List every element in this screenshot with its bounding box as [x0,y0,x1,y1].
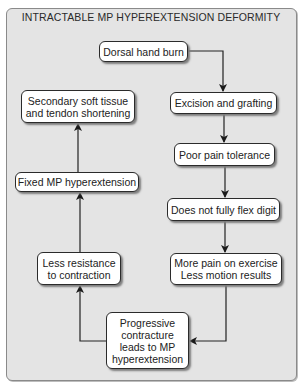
node-dorsal-hand-burn: Dorsal hand burn [99,41,188,62]
node-progressive-contracture: Progressive contracture leads to MP hype… [106,312,189,369]
arrow-progressive-to-less-resistance [80,286,106,341]
arrow-dorsal-to-excision [188,51,223,91]
node-excision-grafting: Excision and grafting [170,92,277,114]
arrow-more-pain-to-progressive [190,285,226,341]
node-more-pain: More pain on exercise Less motion result… [170,253,282,285]
node-fixed-mp-hyperextension: Fixed MP hyperextension [15,172,139,192]
node-less-resistance: Less resistance to contraction [37,252,121,285]
node-poor-pain-tolerance: Poor pain tolerance [174,143,275,166]
node-not-fully-flex: Does not fully flex digit [167,198,280,221]
node-secondary-soft-tissue: Secondary soft tissue and tendon shorten… [21,90,135,123]
